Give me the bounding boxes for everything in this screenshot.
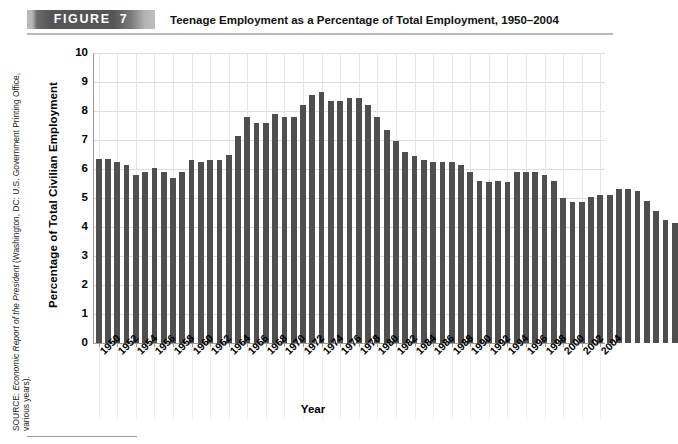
bar: [625, 189, 631, 343]
bar: [235, 136, 241, 343]
bar-series: [94, 53, 605, 343]
bar: [96, 159, 102, 343]
bar: [616, 189, 622, 343]
x-axis-tick-labels: 1950195219541956195819601962196419661968…: [94, 343, 605, 403]
y-axis-tick-label: 4: [82, 221, 88, 233]
bar: [579, 202, 585, 343]
y-axis-tick-label: 8: [82, 105, 88, 117]
y-axis-tick-label: 1: [82, 308, 88, 320]
source-label: SOURCE:: [11, 391, 21, 432]
bar: [570, 202, 576, 343]
bar: [607, 195, 613, 343]
bar: [263, 123, 269, 343]
figure-number-banner: FIGURE 7: [27, 10, 155, 29]
bar: [505, 182, 511, 343]
y-axis-tick-label: 5: [82, 192, 88, 204]
plot-area: 012345678910 195019521954195619581960196…: [93, 53, 605, 344]
bar: [588, 197, 594, 343]
y-axis-tick-label: 6: [82, 163, 88, 175]
bar: [374, 117, 380, 343]
bar: [291, 117, 297, 343]
bar: [523, 172, 529, 343]
bar: [319, 92, 325, 343]
bar: [114, 162, 120, 343]
bar: [486, 182, 492, 343]
bar: [440, 162, 446, 343]
bar: [458, 165, 464, 343]
bar: [170, 178, 176, 343]
bar: [421, 160, 427, 343]
y-axis-tick-label: 10: [75, 47, 88, 59]
header-divider-rule: [27, 33, 613, 35]
y-axis-tick-label: 7: [82, 134, 88, 146]
source-note-line-1: SOURCE: Economic Report of the President…: [11, 73, 21, 431]
bar: [244, 117, 250, 343]
bar: [644, 201, 650, 343]
bar: [597, 195, 603, 343]
bar: [105, 159, 111, 343]
figure-banner-word: FIGURE: [54, 13, 111, 26]
y-axis-title: Percentage of Total Civilian Employment: [44, 45, 62, 345]
bar: [179, 172, 185, 343]
bar: [300, 105, 306, 343]
y-axis-tick-label: 9: [82, 76, 88, 88]
y-axis-tick-label: 0: [82, 337, 88, 349]
bar: [551, 181, 557, 343]
source-note: SOURCE: Economic Report of the President…: [0, 36, 24, 436]
source-publisher: (Washington, DC: U.S. Government Printin…: [11, 73, 21, 265]
bar: [663, 220, 669, 343]
bar: [217, 160, 223, 343]
bar: [635, 191, 641, 343]
bar: [282, 117, 288, 343]
bar: [653, 211, 659, 343]
bar: [672, 223, 678, 343]
bar: [467, 172, 473, 343]
bar: [393, 141, 399, 343]
bar: [402, 152, 408, 343]
bar: [142, 172, 148, 343]
bar: [337, 101, 343, 343]
bar: [198, 162, 204, 343]
bar: [542, 175, 548, 343]
bar: [124, 165, 130, 343]
bar: [254, 123, 260, 343]
chart-figure: Percentage of Total Civilian Employment …: [57, 45, 613, 427]
bar: [560, 198, 566, 343]
bar: [532, 172, 538, 343]
bar: [514, 172, 520, 343]
figure-header: FIGURE 7 Teenage Employment as a Percent…: [27, 9, 613, 30]
bar: [189, 160, 195, 343]
bar: [272, 114, 278, 343]
bar: [365, 105, 371, 343]
source-note-line-2: various years).: [21, 376, 31, 431]
bar: [328, 101, 334, 343]
bar: [384, 130, 390, 343]
bar: [152, 168, 158, 343]
bar: [207, 160, 213, 343]
bar: [356, 98, 362, 343]
bar: [161, 172, 167, 343]
y-axis-tick-label: 2: [82, 279, 88, 291]
figure-banner-number: 7: [120, 13, 129, 26]
bar: [495, 181, 501, 343]
source-publication-title: Economic Report of the President: [11, 265, 21, 390]
figure-title: Teenage Employment as a Percentage of To…: [170, 14, 559, 26]
y-axis-tick-label: 3: [82, 250, 88, 262]
x-axis-title: Year: [57, 403, 569, 415]
bar: [449, 162, 455, 343]
bar: [226, 155, 232, 344]
bar: [477, 181, 483, 343]
bar: [309, 95, 315, 343]
footer-divider-rule: [27, 436, 137, 437]
bar: [133, 175, 139, 343]
bar: [347, 98, 353, 343]
bar: [412, 156, 418, 343]
bar: [430, 162, 436, 343]
